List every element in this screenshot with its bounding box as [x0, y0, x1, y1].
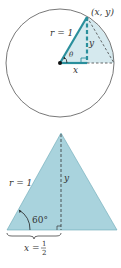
half-base-brace	[7, 233, 61, 239]
equilateral-triangle-figure: r = 1 y 60° x = 1 2	[7, 133, 117, 257]
origin-dot	[58, 61, 62, 65]
unit-circle-figure: (x, y) r = 1 y x θ	[6, 7, 114, 117]
radius-label: r = 1	[50, 28, 73, 38]
side-label: r = 1	[9, 178, 32, 188]
altitude-label: y	[63, 173, 70, 183]
y-label: y	[88, 38, 95, 48]
angle-60-label: 60°	[32, 215, 48, 225]
half-base-lhs: x =	[24, 243, 39, 253]
x-label: x	[73, 65, 78, 75]
half-base-numerator: 1	[42, 240, 46, 248]
half-base-denominator: 2	[42, 249, 46, 257]
point-label: (x, y)	[91, 7, 114, 17]
diagram-canvas: (x, y) r = 1 y x θ r = 1 y 60° x = 1 2	[0, 0, 121, 268]
